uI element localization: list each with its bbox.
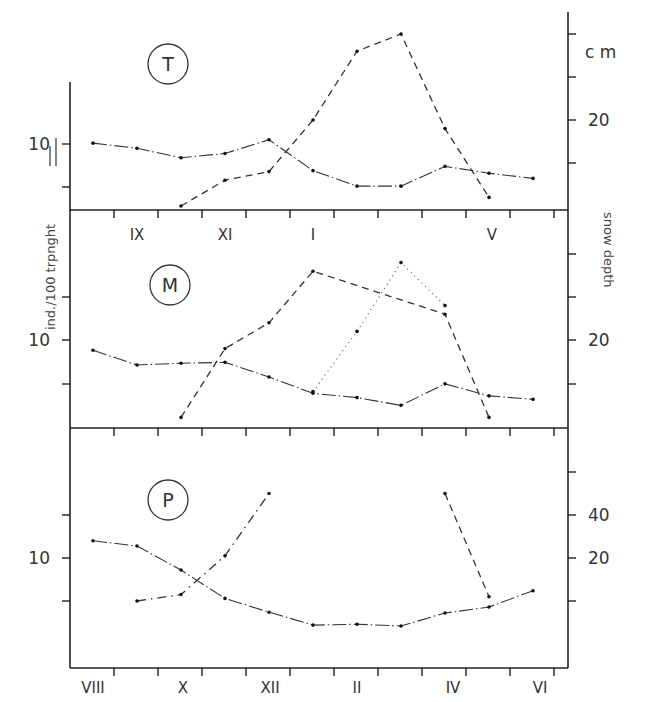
month-label-X: X xyxy=(178,679,188,697)
month-label-XII: XII xyxy=(260,679,279,697)
right-label-M-20: 20 xyxy=(588,330,610,350)
series-M-1 xyxy=(179,269,491,419)
left-label-P-10: 10 xyxy=(28,548,50,568)
left-label-M-10: 10 xyxy=(28,330,50,350)
data-series xyxy=(91,32,535,628)
series-P-0 xyxy=(91,539,535,628)
panel-label-P: P xyxy=(148,480,188,520)
svg-text:P: P xyxy=(162,489,173,511)
abundance-legend-marker-icon xyxy=(50,138,56,166)
right-label-P-20: 20 xyxy=(588,548,610,568)
series-P-2 xyxy=(443,492,491,599)
right-label-T-20: 20 xyxy=(588,110,610,130)
right-label-P-40: 40 xyxy=(588,505,610,525)
svg-text:M: M xyxy=(162,274,178,296)
snow-abundance-chart: T M P 10 10 10 ind./100 trpnght c m 20 2… xyxy=(0,0,648,702)
month-label-II: II xyxy=(353,679,362,697)
series-P-1 xyxy=(135,492,271,603)
tick-marks xyxy=(62,34,576,676)
month-label-IV: IV xyxy=(446,679,461,697)
series-T-1 xyxy=(179,32,491,208)
right-unit-cm: c m xyxy=(585,42,616,62)
panel-label-M: M xyxy=(150,265,190,305)
month-label-V: V xyxy=(487,226,498,244)
month-label-IX: IX xyxy=(130,226,145,244)
series-M-2 xyxy=(311,261,447,394)
left-axis-title: ind./100 trpnght xyxy=(43,224,58,330)
month-label-XI: XI xyxy=(218,226,233,244)
month-label-VI: VI xyxy=(533,679,548,697)
right-axis-title: snow depth xyxy=(601,212,616,288)
panel-label-T: T xyxy=(148,44,188,84)
svg-text:T: T xyxy=(161,53,174,75)
month-label-VIII: VIII xyxy=(81,679,105,697)
series-T-0 xyxy=(91,138,535,188)
series-M-0 xyxy=(91,349,535,408)
left-label-T-10: 10 xyxy=(28,134,50,154)
month-label-I: I xyxy=(311,226,315,244)
